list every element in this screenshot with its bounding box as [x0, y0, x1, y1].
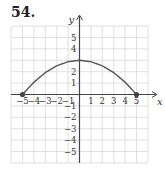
x-tick-label: 3: [111, 96, 116, 106]
y-tick-label: −2: [64, 112, 77, 122]
y-tick-label: 5: [71, 33, 76, 43]
curve-endpoint-marker: [134, 92, 139, 97]
y-tick-label: 4: [71, 44, 76, 54]
x-tick-label: 4: [122, 96, 127, 106]
y-tick-label: −1: [64, 101, 77, 111]
y-tick-label: −5: [64, 147, 77, 157]
coordinate-plane-chart: xy−5−4−3−2−1123455421−1−2−3−4−5: [0, 0, 165, 174]
y-tick-label: 1: [71, 78, 76, 88]
x-tick-label: 1: [88, 96, 93, 106]
y-tick-label: −4: [64, 135, 77, 145]
y-axis-label: y: [68, 14, 75, 25]
x-tick-label: 2: [100, 96, 105, 106]
y-tick-label: −3: [64, 124, 77, 134]
x-axis-label: x: [157, 96, 163, 107]
y-tick-label: 2: [71, 67, 76, 77]
curve-endpoint-marker: [20, 92, 25, 97]
